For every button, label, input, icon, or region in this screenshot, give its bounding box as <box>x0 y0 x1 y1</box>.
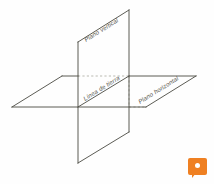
diagram-canvas: Plano vertical Línea de tierra Plano hor… <box>0 0 214 184</box>
descriptive-geometry-diagram: Plano vertical Línea de tierra Plano hor… <box>0 0 214 184</box>
watermark-bubble-dot <box>195 163 200 168</box>
watermark-bubble-tail <box>192 173 196 178</box>
chat-bubble-icon <box>188 158 209 179</box>
